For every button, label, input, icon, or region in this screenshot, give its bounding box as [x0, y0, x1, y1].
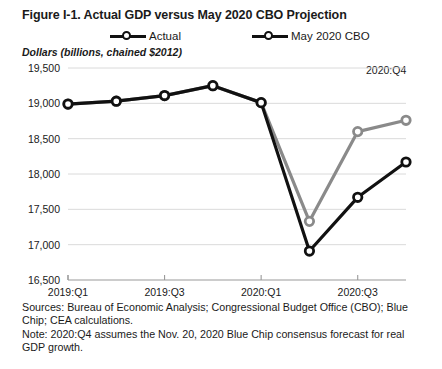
footnote-note: Note: 2020:Q4 assumes the Nov. 20, 2020 … — [22, 328, 428, 355]
footnote-sources: Sources: Bureau of Economic Analysis; Co… — [22, 301, 428, 328]
figure-footnotes: Sources: Bureau of Economic Analysis; Co… — [22, 301, 428, 355]
figure-container: Figure I-1. Actual GDP versus May 2020 C… — [0, 0, 442, 369]
